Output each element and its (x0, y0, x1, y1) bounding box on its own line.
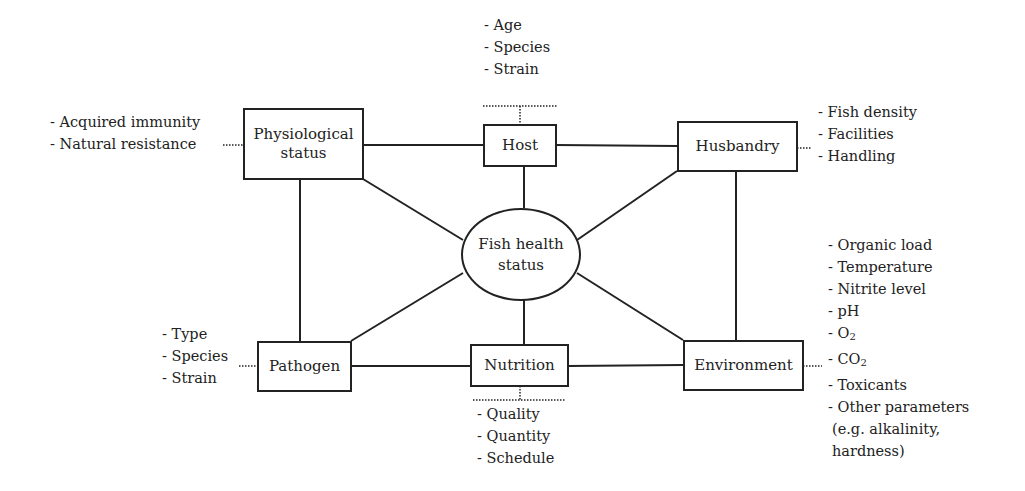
node-label: Husbandry (696, 137, 780, 156)
node-host: Host (483, 124, 557, 167)
environment-factors-list: - Organic load - Temperature - Nitrite l… (828, 234, 969, 462)
factor-item: - Other parameters (828, 396, 969, 418)
node-label: Environment (694, 356, 793, 375)
factor-item-o2: - O2 (828, 322, 969, 348)
factor-item: - Acquired immunity (50, 111, 200, 133)
husbandry-factors-list: - Fish density - Facilities - Handling (818, 101, 917, 167)
factor-item: - Age (484, 14, 550, 36)
factor-item: - Handling (818, 145, 917, 167)
factor-item: - Type (162, 323, 228, 345)
factor-item: - Strain (162, 367, 228, 389)
factor-item: - Natural resistance (50, 133, 200, 155)
node-nutrition: Nutrition (470, 344, 569, 387)
node-environment: Environment (683, 340, 804, 391)
node-fish-health-status: Fish health status (461, 208, 581, 301)
factor-item: - Species (484, 36, 550, 58)
factor-item: - Facilities (818, 123, 917, 145)
node-label: status (253, 144, 353, 163)
factor-item: - Nitrite level (828, 278, 969, 300)
factor-item: - Fish density (818, 101, 917, 123)
physiological-factors-list: - Acquired immunity - Natural resistance (50, 111, 200, 155)
node-label: Host (502, 136, 538, 155)
factor-item: - pH (828, 300, 969, 322)
factor-item: - Strain (484, 58, 550, 80)
factor-item-co2: - CO2 (828, 348, 969, 374)
node-pathogen: Pathogen (257, 341, 352, 392)
factor-item: - Species (162, 345, 228, 367)
node-physiological-status: Physiological status (243, 108, 364, 180)
node-label: Physiological (253, 125, 353, 144)
pathogen-factors-list: - Type - Species - Strain (162, 323, 228, 389)
factor-item: - Temperature (828, 256, 969, 278)
factor-item: hardness) (828, 440, 969, 462)
center-label: status (478, 255, 563, 276)
factor-item: - Organic load (828, 234, 969, 256)
factor-item: - Toxicants (828, 374, 969, 396)
node-label: Pathogen (269, 357, 340, 376)
node-label: Nutrition (484, 356, 554, 375)
node-husbandry: Husbandry (677, 121, 798, 172)
factor-item: - Quality (477, 403, 554, 425)
nutrition-factors-list: - Quality - Quantity - Schedule (477, 403, 554, 469)
factor-item: (e.g. alkalinity, (828, 418, 969, 440)
factor-item: - Schedule (477, 447, 554, 469)
center-label: Fish health (478, 234, 563, 255)
host-factors-list: - Age - Species - Strain (484, 14, 550, 80)
factor-item: - Quantity (477, 425, 554, 447)
